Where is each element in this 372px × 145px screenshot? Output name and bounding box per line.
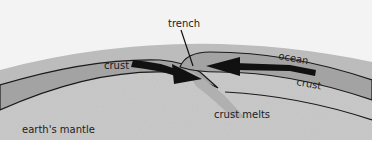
label-trench: trench xyxy=(168,18,200,29)
subduction-diagram: trench crust ocean crust crust melts ear… xyxy=(0,0,372,145)
label-mantle: earth's mantle xyxy=(22,124,95,135)
label-crust-left: crust xyxy=(104,60,129,71)
label-crust-melts: crust melts xyxy=(214,109,270,120)
diagram-canvas: trench crust ocean crust crust melts ear… xyxy=(0,0,372,145)
bottom-border xyxy=(0,140,372,145)
